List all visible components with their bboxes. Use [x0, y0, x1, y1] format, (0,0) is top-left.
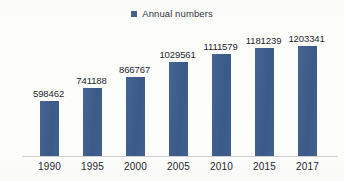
bar-rect[interactable]	[298, 46, 317, 156]
bar-rect[interactable]	[126, 77, 145, 156]
bar-value-label: 1111579	[203, 41, 237, 52]
bar-value-label: 1029561	[159, 49, 195, 60]
bar-rect[interactable]	[255, 48, 274, 156]
bar-2017[interactable]: 1203341	[298, 46, 317, 156]
bar-value-label: 598462	[33, 88, 64, 99]
bar-2000[interactable]: 866767	[126, 77, 145, 156]
x-tick-label-2017: 2017	[288, 161, 328, 172]
x-tick-label-2005: 2005	[159, 161, 199, 172]
bar-2010[interactable]: 1111579	[212, 54, 231, 156]
bar-value-label: 1181239	[246, 35, 282, 46]
x-tick-label-1995: 1995	[73, 161, 113, 172]
bar-chart: Annual numbers 5984627411888667671029561…	[0, 0, 344, 181]
bar-rect[interactable]	[83, 88, 102, 156]
bar-rect[interactable]	[40, 101, 59, 156]
bar-value-label: 1203341	[288, 33, 324, 44]
x-axis-line	[22, 156, 338, 157]
bar-value-label: 866767	[119, 64, 150, 75]
bar-2005[interactable]: 1029561	[169, 62, 188, 156]
x-tick-label-2010: 2010	[202, 161, 242, 172]
x-tick-label-2000: 2000	[116, 161, 156, 172]
x-tick-label-2015: 2015	[245, 161, 285, 172]
bar-1990[interactable]: 598462	[40, 101, 59, 156]
bar-1995[interactable]: 741188	[83, 88, 102, 156]
plot-area: 5984627411888667671029561111157911812391…	[0, 0, 344, 181]
bar-rect[interactable]	[212, 54, 231, 156]
bar-value-label: 741188	[76, 75, 106, 86]
bar-2015[interactable]: 1181239	[255, 48, 274, 156]
bar-rect[interactable]	[169, 62, 188, 156]
x-tick-label-1990: 1990	[30, 161, 70, 172]
